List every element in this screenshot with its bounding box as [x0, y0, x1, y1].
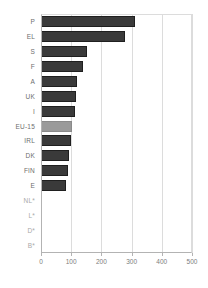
- bar-row: [41, 148, 192, 163]
- bar: [41, 121, 72, 132]
- bar-chart: PELSFAUKIEU-15IRLDKFINENL*L*D*B* 0100200…: [0, 0, 208, 288]
- bar: [41, 135, 71, 146]
- bar-row: [41, 44, 192, 59]
- plot-area: [41, 14, 192, 253]
- bar-row: [41, 104, 192, 119]
- y-axis-label: P: [0, 14, 38, 29]
- y-axis-label: B*: [0, 238, 38, 253]
- bar-series: [41, 14, 192, 253]
- bar-row: [41, 14, 192, 29]
- bar: [41, 16, 135, 27]
- y-axis-category-labels: PELSFAUKIEU-15IRLDKFINENL*L*D*B*: [0, 14, 38, 253]
- y-axis-label: A: [0, 74, 38, 89]
- y-axis-label: E: [0, 178, 38, 193]
- bar-row: [41, 119, 192, 134]
- y-axis-label: I: [0, 104, 38, 119]
- x-tick-mark: [192, 253, 193, 256]
- bar: [41, 106, 75, 117]
- x-tick-mark: [41, 253, 42, 256]
- y-axis-label: L*: [0, 208, 38, 223]
- x-tick-label: 400: [156, 258, 167, 265]
- bar-row: [41, 163, 192, 178]
- bar: [41, 91, 76, 102]
- y-axis-label: IRL: [0, 134, 38, 149]
- bar: [41, 165, 68, 176]
- y-axis-label: UK: [0, 89, 38, 104]
- x-tick-mark: [101, 253, 102, 256]
- bar-row: [41, 89, 192, 104]
- bar: [41, 46, 87, 57]
- x-axis-ticks: 0100200300400500: [41, 253, 192, 273]
- bar: [41, 150, 69, 161]
- y-axis-label: EL: [0, 29, 38, 44]
- x-tick-label: 500: [187, 258, 198, 265]
- x-tick-mark: [71, 253, 72, 256]
- y-axis-label: D*: [0, 223, 38, 238]
- y-axis-label: EU-15: [0, 119, 38, 134]
- bar-row: [41, 178, 192, 193]
- y-axis-label: FIN: [0, 163, 38, 178]
- y-axis-label: S: [0, 44, 38, 59]
- bar-row: [41, 193, 192, 208]
- y-axis-label: DK: [0, 148, 38, 163]
- x-tick-label: 0: [39, 258, 43, 265]
- x-tick-mark: [132, 253, 133, 256]
- x-tick-label: 300: [126, 258, 137, 265]
- bar-row: [41, 134, 192, 149]
- y-axis-label: NL*: [0, 193, 38, 208]
- x-tick-label: 100: [66, 258, 77, 265]
- bar: [41, 76, 77, 87]
- x-tick-label: 200: [96, 258, 107, 265]
- bar: [41, 180, 66, 191]
- bar-row: [41, 74, 192, 89]
- bar-row: [41, 29, 192, 44]
- bar: [41, 31, 125, 42]
- gridline: [192, 14, 193, 253]
- bar-row: [41, 238, 192, 253]
- bar-row: [41, 59, 192, 74]
- bar-row: [41, 223, 192, 238]
- y-axis-label: F: [0, 59, 38, 74]
- bar-row: [41, 208, 192, 223]
- bar: [41, 61, 83, 72]
- x-tick-mark: [162, 253, 163, 256]
